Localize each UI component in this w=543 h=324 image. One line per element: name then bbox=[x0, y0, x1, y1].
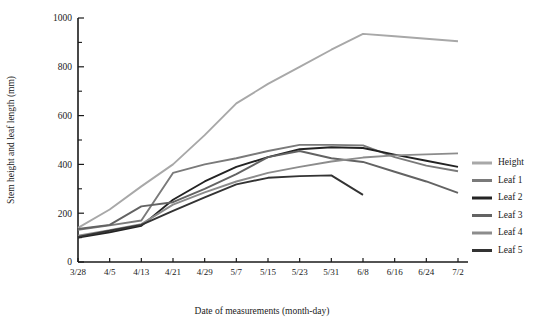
series-line-height bbox=[78, 34, 458, 228]
legend-label-height: Height bbox=[498, 157, 524, 167]
x-axis-tick-label: 5/31 bbox=[323, 267, 339, 277]
x-axis: 3/284/54/134/214/295/75/155/235/316/86/1… bbox=[70, 258, 468, 277]
x-axis-tick-labels: 3/284/54/134/214/295/75/155/235/316/86/1… bbox=[70, 267, 464, 277]
data-series-group bbox=[78, 34, 458, 238]
x-axis-tick-label: 5/7 bbox=[231, 267, 243, 277]
legend-label-leaf-5: Leaf 5 bbox=[498, 245, 523, 255]
series-line-leaf-2 bbox=[78, 147, 458, 237]
y-axis-tick-label: 800 bbox=[58, 62, 73, 72]
y-axis-tick-label: 0 bbox=[67, 257, 72, 267]
legend-label-leaf-4: Leaf 4 bbox=[498, 227, 523, 237]
x-axis-tick-label: 4/29 bbox=[197, 267, 214, 277]
y-axis-tick-label: 400 bbox=[58, 160, 73, 170]
x-axis-tick-label: 3/28 bbox=[70, 267, 87, 277]
y-axis-title: Stem height and leaf length (mm) bbox=[6, 76, 17, 204]
series-line-leaf-4 bbox=[78, 153, 458, 235]
x-axis-tick-label: 5/15 bbox=[260, 267, 277, 277]
x-axis-tick-label: 6/16 bbox=[387, 267, 404, 277]
chart-figure: 02004006008001000 3/284/54/134/214/295/7… bbox=[0, 0, 543, 324]
legend-label-leaf-3: Leaf 3 bbox=[498, 210, 523, 220]
x-axis-tick-label: 4/21 bbox=[165, 267, 181, 277]
y-axis-tick-label: 1000 bbox=[53, 13, 72, 23]
x-axis-title: Date of measurements (month-day) bbox=[195, 306, 330, 317]
legend-label-leaf-1: Leaf 1 bbox=[498, 175, 523, 185]
line-chart: 02004006008001000 3/284/54/134/214/295/7… bbox=[0, 0, 543, 324]
x-axis-tick-label: 5/23 bbox=[292, 267, 309, 277]
y-axis-tick-label: 600 bbox=[58, 111, 73, 121]
x-axis-tick-label: 4/5 bbox=[104, 267, 116, 277]
y-axis-tick-labels: 02004006008001000 bbox=[53, 13, 72, 267]
x-axis-tick-label: 6/24 bbox=[418, 267, 435, 277]
x-axis-tick-label: 4/13 bbox=[133, 267, 150, 277]
x-axis-tick-label: 7/2 bbox=[452, 267, 464, 277]
x-axis-tick-label: 6/8 bbox=[357, 267, 369, 277]
y-axis-tick-label: 200 bbox=[58, 209, 73, 219]
legend-label-leaf-2: Leaf 2 bbox=[498, 192, 523, 202]
chart-legend: HeightLeaf 1Leaf 2Leaf 3Leaf 4Leaf 5 bbox=[472, 157, 524, 255]
